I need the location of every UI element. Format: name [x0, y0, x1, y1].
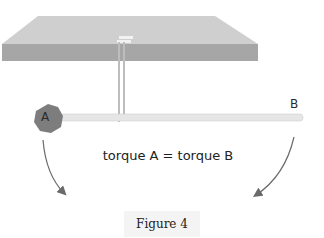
torque-equation: torque A = torque B [0, 148, 324, 163]
label-b: B [290, 97, 298, 111]
lever-rod [58, 114, 303, 121]
figure-caption: Figure 4 [124, 211, 200, 237]
label-a: A [41, 110, 49, 124]
arrow-b-icon [256, 137, 294, 195]
